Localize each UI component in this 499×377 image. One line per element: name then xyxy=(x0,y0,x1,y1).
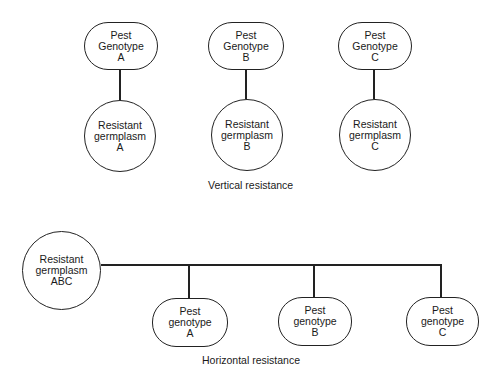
node-label: B xyxy=(311,327,318,338)
node-label: A xyxy=(186,328,193,339)
node-label: A xyxy=(116,142,123,153)
node-label: germplasm xyxy=(349,130,401,141)
node-label: germplasm xyxy=(94,131,146,142)
horizontal-pest-genotype-c-node: Pest genotype C xyxy=(406,297,479,346)
pest-genotype-a-node: Pest Genotype A xyxy=(84,22,158,70)
node-label: Genotype xyxy=(223,41,269,52)
resistant-germplasm-abc-node: Resistant germplasm ABC xyxy=(22,231,101,310)
horizontal-pest-genotype-a-node: Pest genotype A xyxy=(152,298,228,347)
pest-genotype-b-node: Pest Genotype B xyxy=(208,22,284,70)
node-label: Pest xyxy=(364,30,385,41)
node-label: A xyxy=(117,52,124,63)
node-label: Resistant xyxy=(353,119,397,130)
node-label: germplasm xyxy=(221,130,273,141)
node-label: B xyxy=(242,52,249,63)
node-label: Genotype xyxy=(352,41,398,52)
node-label: C xyxy=(371,141,379,152)
node-label: Resistant xyxy=(225,119,269,130)
node-label: Pest xyxy=(110,30,131,41)
node-label: Pest xyxy=(235,30,256,41)
resistant-germplasm-a-node: Resistant germplasm A xyxy=(84,100,156,172)
node-label: Resistant xyxy=(98,120,142,131)
vertical-resistance-caption: Vertical resistance xyxy=(208,179,293,191)
node-label: C xyxy=(371,52,379,63)
node-label: C xyxy=(439,327,447,338)
horizontal-resistance-caption: Horizontal resistance xyxy=(202,354,300,366)
node-label: B xyxy=(243,141,250,152)
resistant-germplasm-b-node: Resistant germplasm B xyxy=(211,99,283,171)
node-label: Genotype xyxy=(98,41,144,52)
resistant-germplasm-c-node: Resistant germplasm C xyxy=(339,99,411,171)
node-label: ABC xyxy=(51,276,73,287)
horizontal-pest-genotype-b-node: Pest genotype B xyxy=(278,297,352,346)
pest-genotype-c-node: Pest Genotype C xyxy=(338,22,412,70)
